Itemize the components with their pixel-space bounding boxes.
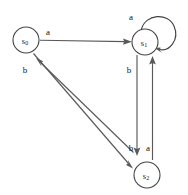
edge-label-s1-self-loop: a	[129, 12, 133, 22]
edge-label-s2-to-s1: a	[146, 143, 150, 153]
node-s0-label-subscript: 0	[25, 40, 28, 46]
edge-label-s1-to-s2: b	[127, 65, 132, 75]
edge-s2-to-s1: a	[146, 56, 156, 160]
edge-s2-to-s0-line	[41, 63, 134, 153]
node-s2[interactable]: s2	[134, 162, 160, 188]
edge-label-s0-to-s1: a	[46, 27, 50, 37]
edge-label-s0-to-s2: b	[23, 65, 28, 75]
edge-s0-to-s1-arrowhead	[123, 39, 132, 45]
edge-s2-to-s0-arrowhead	[36, 58, 43, 67]
edge-label-s2-to-s0: b	[129, 143, 134, 153]
node-s1[interactable]: s1	[132, 29, 158, 55]
edge-s1-to-s2: b	[127, 55, 141, 156]
edge-s0-to-s1-line	[40, 40, 126, 41]
state-diagram-svg: a a b b b a	[0, 0, 188, 195]
edge-s2-to-s0: b	[36, 58, 134, 153]
node-s0[interactable]: s0	[13, 27, 39, 53]
state-diagram-canvas: a a b b b a	[0, 0, 188, 195]
edge-s0-to-s1: a	[40, 27, 132, 45]
node-s2-label-subscript: 2	[146, 175, 149, 181]
edge-s0-to-s2: b	[23, 54, 133, 169]
node-s1-label-subscript: 1	[144, 42, 147, 48]
